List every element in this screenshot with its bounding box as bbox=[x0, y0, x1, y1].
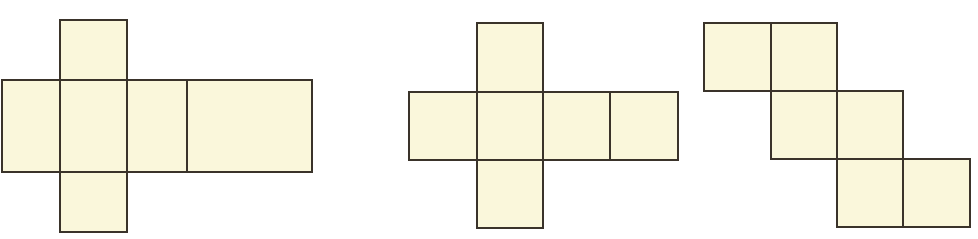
net-3-square-row2-left bbox=[771, 91, 837, 159]
net-3-square-row3-right bbox=[903, 159, 970, 227]
net-3-square-row1-left bbox=[704, 23, 771, 91]
net-3-square-row3-left bbox=[837, 159, 903, 227]
net-1-square-right-inner bbox=[127, 80, 187, 172]
net-1-square-bottom bbox=[60, 172, 127, 232]
net-1-square-left bbox=[2, 80, 60, 172]
figure-canvas bbox=[0, 0, 978, 239]
net-2-square-bottom bbox=[477, 160, 543, 228]
net-2-square-center bbox=[477, 92, 543, 160]
net-1-square-right-outer bbox=[187, 80, 312, 172]
net-3-square-row1-right bbox=[771, 23, 837, 91]
net-1-square-center bbox=[60, 80, 127, 172]
net-1-square-top bbox=[60, 20, 127, 80]
nets-svg bbox=[0, 0, 978, 239]
nets-figure bbox=[0, 0, 978, 239]
net-2-square-right-outer bbox=[610, 92, 678, 160]
net-3-square-row2-right bbox=[837, 91, 903, 159]
net-2-square-left bbox=[409, 92, 477, 160]
net-2-square-right-inner bbox=[543, 92, 610, 160]
net-2-square-top bbox=[477, 23, 543, 92]
